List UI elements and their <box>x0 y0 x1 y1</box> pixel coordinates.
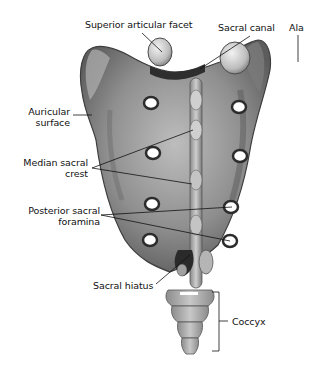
coccyx-bone <box>166 290 214 354</box>
label-sacral-canal: Sacral canal <box>218 22 275 33</box>
label-superior-articular-facet: Superior articular facet <box>85 19 193 30</box>
label-median-sacral-crest-line1: Median sacral <box>14 157 88 168</box>
label-auricular-surface-line2: surface <box>22 117 70 128</box>
sacrum-illustration <box>0 0 325 373</box>
label-median-sacral-crest: Median sacral crest <box>14 157 88 179</box>
label-auricular-surface: Auricular surface <box>22 106 70 128</box>
label-coccyx: Coccyx <box>232 316 266 327</box>
label-auricular-surface-line1: Auricular <box>22 106 70 117</box>
label-sacral-hiatus: Sacral hiatus <box>93 280 153 291</box>
superior-articular-facet-right <box>220 42 250 74</box>
label-posterior-sacral-foramina-line2: foramina <box>10 216 100 227</box>
label-ala: Ala <box>289 22 304 33</box>
label-median-sacral-crest-line2: crest <box>14 168 88 179</box>
label-posterior-sacral-foramina-line1: Posterior sacral <box>10 205 100 216</box>
label-posterior-sacral-foramina: Posterior sacral foramina <box>10 205 100 227</box>
